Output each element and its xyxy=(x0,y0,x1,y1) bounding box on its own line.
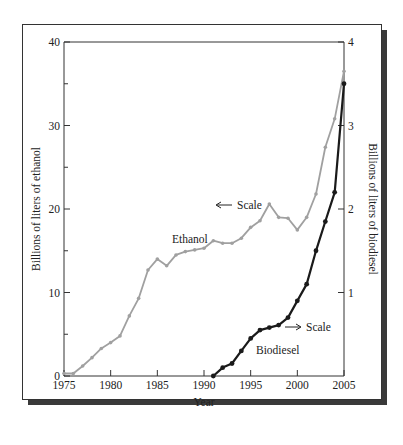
ethanol-marker xyxy=(81,364,85,368)
y-axis-left-title: Billions of liters of ethanol xyxy=(30,147,42,271)
ethanol-marker xyxy=(72,372,76,376)
ethanol-marker xyxy=(109,341,113,345)
scale-right-annotation: Scale xyxy=(285,321,331,333)
chart-svg: 1975198019851990199520002005010203040123… xyxy=(0,0,403,445)
ethanol-marker xyxy=(277,216,281,220)
biodiesel-marker xyxy=(314,248,319,253)
biodiesel-label: Biodiesel xyxy=(256,344,299,356)
x-tick-label: 1980 xyxy=(99,379,122,391)
ethanol-marker xyxy=(62,372,66,376)
x-tick-label: 2000 xyxy=(286,379,309,391)
biodiesel-marker xyxy=(267,325,272,330)
y-left-tick-label: 30 xyxy=(49,120,61,132)
ethanol-marker xyxy=(146,268,150,272)
biodiesel-marker xyxy=(220,365,225,370)
ethanol-marker xyxy=(314,192,318,196)
ethanol-marker xyxy=(184,250,188,254)
scale-left-label: Scale xyxy=(237,199,262,211)
biodiesel-marker xyxy=(323,219,328,224)
ethanol-marker xyxy=(165,264,169,268)
ethanol-marker xyxy=(324,145,328,149)
biodiesel-marker xyxy=(230,361,235,366)
biodiesel-marker xyxy=(211,374,216,379)
x-tick-label: 1990 xyxy=(193,379,216,391)
ethanol-marker xyxy=(296,228,300,232)
ethanol-marker xyxy=(193,248,197,252)
x-tick-label: 1995 xyxy=(239,379,262,391)
axes: 1975198019851990199520002005010203040123… xyxy=(49,36,356,391)
y-left-tick-label: 10 xyxy=(49,287,61,299)
y-left-tick-label: 40 xyxy=(49,36,61,48)
ethanol-marker xyxy=(268,202,272,206)
scale-right-label: Scale xyxy=(306,321,331,333)
ethanol-marker xyxy=(90,356,94,360)
biodiesel-marker xyxy=(342,81,347,86)
ethanol-marker xyxy=(333,117,337,121)
y-left-tick-label: 0 xyxy=(54,370,60,382)
y-left-tick-label: 20 xyxy=(49,203,61,215)
biodiesel-marker xyxy=(239,349,244,354)
ethanol-marker xyxy=(128,314,132,318)
ethanol-marker xyxy=(230,241,234,245)
ethanol-marker xyxy=(156,257,160,261)
ethanol-marker xyxy=(249,226,253,230)
labels-layer: Ethanol Biodiesel Scale Scale Year Billi… xyxy=(30,143,379,408)
ethanol-marker xyxy=(118,334,122,338)
y-right-tick-label: 3 xyxy=(348,120,354,132)
x-tick-label: 1985 xyxy=(146,379,169,391)
biodiesel-marker xyxy=(258,328,263,333)
biodiesel-marker xyxy=(332,190,337,195)
biodiesel-marker xyxy=(248,336,253,341)
x-tick-label: 2005 xyxy=(333,379,356,391)
ethanol-marker xyxy=(286,216,290,220)
ethanol-marker xyxy=(305,216,309,220)
y-right-tick-label: 4 xyxy=(348,36,354,48)
ethanol-marker xyxy=(258,219,262,223)
ethanol-label: Ethanol xyxy=(172,233,208,245)
ethanol-marker xyxy=(202,246,206,250)
y-right-tick-label: 2 xyxy=(348,203,354,215)
y-right-tick-label: 1 xyxy=(348,287,354,299)
ethanol-marker xyxy=(174,253,178,257)
ethanol-marker xyxy=(100,347,104,351)
x-axis-title: Year xyxy=(193,396,214,408)
biodiesel-marker xyxy=(304,282,309,287)
ethanol-marker xyxy=(221,241,225,245)
ethanol-marker xyxy=(240,236,244,240)
series-layer xyxy=(62,69,346,378)
ethanol-line xyxy=(64,71,344,373)
biodiesel-marker xyxy=(276,323,281,328)
ethanol-marker xyxy=(212,239,216,243)
ethanol-marker xyxy=(137,297,141,301)
y-axis-right-title: Billions of liters of biodiesel xyxy=(367,143,379,275)
ethanol-marker xyxy=(342,69,346,73)
biodiesel-marker xyxy=(286,315,291,320)
scale-left-annotation: Scale xyxy=(216,199,262,211)
biodiesel-marker xyxy=(295,298,300,303)
